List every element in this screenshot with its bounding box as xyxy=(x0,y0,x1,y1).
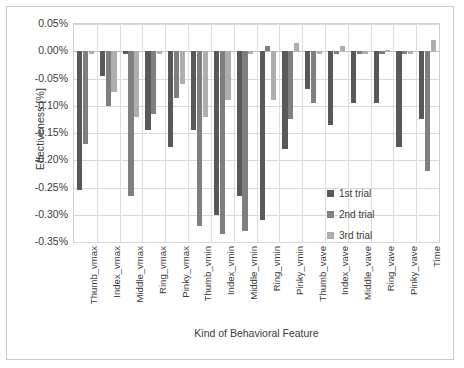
bar xyxy=(294,43,299,51)
bar-group xyxy=(416,24,439,242)
y-tick-label: -0.25% xyxy=(10,181,68,193)
x-tick-label: Ring_vmin xyxy=(271,246,282,291)
bar xyxy=(374,51,379,103)
x-tick-label: Thumb_vave xyxy=(317,246,328,301)
bar xyxy=(180,51,185,84)
bar xyxy=(242,51,247,231)
x-tick-label: Index_vave xyxy=(339,246,350,295)
bar xyxy=(151,51,156,114)
bar xyxy=(77,51,82,190)
y-tick-label: -0.20% xyxy=(10,153,68,165)
bar-group xyxy=(120,24,143,242)
bar xyxy=(145,51,150,130)
bar xyxy=(106,51,111,106)
bar xyxy=(385,50,390,52)
bar xyxy=(357,51,362,54)
x-tick-label: Middle_vave xyxy=(362,246,373,300)
bar-group xyxy=(302,24,325,242)
y-tick-label: -0.05% xyxy=(10,72,68,84)
bar xyxy=(100,51,105,76)
bar xyxy=(214,51,219,215)
bar xyxy=(220,51,225,234)
legend-item[interactable]: 1st trial xyxy=(327,183,405,204)
x-tick-label: Index_vmin xyxy=(225,246,236,295)
x-tick-label: Pinky_vmax xyxy=(180,246,191,298)
bar xyxy=(408,51,413,54)
bar-group xyxy=(279,24,302,242)
bar xyxy=(431,40,436,51)
bar-group xyxy=(211,24,234,242)
bar-group xyxy=(97,24,120,242)
bar xyxy=(191,51,196,130)
bar xyxy=(168,51,173,146)
bar xyxy=(305,51,310,89)
bar xyxy=(328,51,333,125)
bar xyxy=(351,51,356,103)
y-tick-label: -0.10% xyxy=(10,99,68,111)
bar xyxy=(340,46,345,51)
bar xyxy=(248,51,253,54)
y-tick-label: -0.15% xyxy=(10,126,68,138)
x-tick-label: Time xyxy=(431,246,442,267)
legend-item[interactable]: 2nd trial xyxy=(327,204,405,225)
bar xyxy=(288,51,293,119)
legend-item[interactable]: 3rd trial xyxy=(327,225,405,246)
bar xyxy=(334,51,339,54)
x-tick-label: Middle_vmax xyxy=(134,246,145,303)
x-tick-label: Pinky_vave xyxy=(408,246,419,295)
legend-label: 2nd trial xyxy=(339,209,375,220)
x-tick-label: Ring_vmax xyxy=(157,246,168,294)
bar xyxy=(379,51,384,54)
legend-swatch-icon xyxy=(327,211,334,218)
x-tick-label: Index_vmax xyxy=(111,246,122,298)
bar-group xyxy=(188,24,211,242)
bar xyxy=(203,51,208,116)
chart-figure: Effectiveness [%] 0.05%0.00%-0.05%-0.10%… xyxy=(0,0,464,368)
y-tick-label: 0.05% xyxy=(10,17,68,29)
bar xyxy=(83,51,88,144)
bar xyxy=(197,51,202,225)
bar-group xyxy=(165,24,188,242)
legend-label: 3rd trial xyxy=(339,230,372,241)
bar xyxy=(225,51,230,100)
bar xyxy=(111,51,116,92)
bar xyxy=(419,51,424,119)
bar-group xyxy=(74,24,97,242)
bar xyxy=(402,51,407,54)
x-tick-label: Thumb_vmin xyxy=(202,246,213,301)
bar xyxy=(89,51,94,54)
bar xyxy=(123,51,128,54)
chart-legend: 1st trial2nd trial3rd trial xyxy=(327,183,405,246)
bar xyxy=(396,51,401,146)
legend-swatch-icon xyxy=(327,232,334,239)
y-tick-label: -0.35% xyxy=(10,235,68,247)
y-tick-label: 0.00% xyxy=(10,44,68,56)
bar xyxy=(157,51,162,54)
x-axis-ticks: Thumb_vmaxIndex_vmaxMiddle_vmaxRing_vmax… xyxy=(73,246,440,324)
bar xyxy=(362,51,367,54)
bar xyxy=(134,51,139,116)
bar xyxy=(128,51,133,195)
bar xyxy=(425,51,430,171)
x-tick-label: Ring_vave xyxy=(385,246,396,291)
bar xyxy=(311,51,316,103)
bar xyxy=(265,46,270,51)
x-tick-label: Middle_vmin xyxy=(248,246,259,300)
bar-group xyxy=(234,24,257,242)
bar-group xyxy=(257,24,280,242)
x-axis-title: Kind of Behavioral Feature xyxy=(73,327,440,339)
legend-label: 1st trial xyxy=(339,188,371,199)
bar xyxy=(282,51,287,149)
bar xyxy=(317,51,322,54)
bar xyxy=(260,51,265,220)
bar xyxy=(271,51,276,100)
x-tick-label: Pinky_vmin xyxy=(294,246,305,295)
bar xyxy=(174,51,179,97)
legend-swatch-icon xyxy=(327,190,334,197)
bar xyxy=(237,51,242,195)
bar-group xyxy=(142,24,165,242)
x-tick-label: Thumb_vmax xyxy=(88,246,99,304)
y-axis-ticks: 0.05%0.00%-0.05%-0.10%-0.15%-0.20%-0.25%… xyxy=(5,23,68,243)
y-tick-label: -0.30% xyxy=(10,208,68,220)
